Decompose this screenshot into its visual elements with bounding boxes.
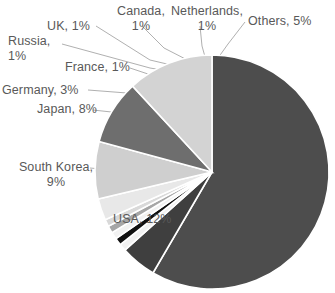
slice-label-canada: Canada, 1% <box>112 4 170 35</box>
slice-label-others: Others, 5% <box>248 14 312 29</box>
slice-label-russia: Russia, 1% <box>8 34 50 65</box>
slice-label-germany: Germany, 3% <box>2 83 79 98</box>
slice-label-south-korea: South Korea, 9% <box>14 160 98 191</box>
slice-label-uk: UK, 1% <box>47 19 90 34</box>
slice-label-japan: Japan, 8% <box>37 102 97 117</box>
pie-chart: China, 59% Russia, 1% UK, 1% Canada, 1% … <box>0 0 335 293</box>
slice-inner-label-china: China, 59% <box>246 182 308 196</box>
slice-label-netherlands: Netherlands, 1% <box>168 4 246 35</box>
slice-label-usa: USA, 12% <box>113 212 171 227</box>
slice-label-france: France, 1% <box>65 60 130 75</box>
pie-slices <box>95 55 329 289</box>
pie-inner-labels: China, 59% <box>246 182 308 196</box>
